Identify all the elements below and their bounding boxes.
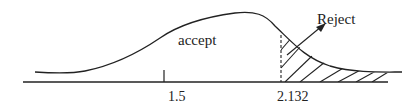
distribution-diagram: accept Reject 1.5 2.132 xyxy=(0,0,416,106)
reject-label: Reject xyxy=(317,11,356,27)
rejection-region-hatch xyxy=(281,35,398,82)
mean-tick-label: 1.5 xyxy=(168,89,186,104)
critical-value-label: 2.132 xyxy=(277,89,309,104)
reject-arrow-shaft xyxy=(287,26,322,55)
accept-label: accept xyxy=(178,32,217,48)
